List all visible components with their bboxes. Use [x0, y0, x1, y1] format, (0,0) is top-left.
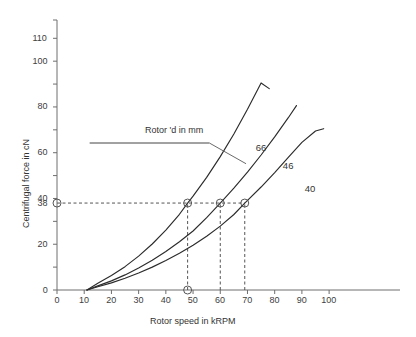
y-axis-title: Centrifugal force in cN: [21, 139, 31, 228]
curve-66: [87, 83, 269, 290]
x-tick-label: 40: [161, 296, 171, 305]
axes-group: [57, 20, 400, 290]
x-tick-label: 30: [133, 296, 143, 305]
markers-group: [53, 199, 249, 294]
tick-marks-group: [53, 20, 329, 294]
y-axis-title-wrap: Centrifugal force in cN: [10, 90, 24, 230]
chart-figure: Centrifugal force in cN Rotor speed in k…: [0, 0, 416, 337]
y-tick-label: 80: [38, 102, 48, 111]
x-tick-label: 100: [321, 296, 336, 305]
y-tick-label: 0: [43, 286, 48, 295]
y-tick-label: 100: [32, 57, 47, 66]
curve-label-66: 66: [256, 143, 267, 153]
annotation-leader-line: [209, 143, 246, 164]
x-tick-label: 80: [269, 296, 279, 305]
y-tick-label: 110: [32, 34, 46, 43]
curves-group: [87, 83, 324, 290]
x-tick-label: 60: [215, 296, 225, 305]
x-axis-title: Rotor speed in kRPM: [150, 317, 236, 326]
x-tick-label: 50: [188, 296, 198, 305]
y-tick-label-special: 38: [38, 199, 48, 208]
x-tick-label: 20: [106, 296, 116, 305]
x-tick-label: 0: [54, 296, 59, 305]
curve-40: [87, 129, 324, 290]
x-tick-label: 70: [242, 296, 252, 305]
y-tick-label: 20: [38, 240, 48, 249]
x-tick-label: 10: [79, 296, 89, 305]
annotation-label: Rotor 'd in mm: [145, 126, 203, 135]
curve-label-46: 46: [283, 161, 294, 171]
y-tick-label: 60: [38, 148, 48, 157]
guide-lines-group: [57, 203, 245, 290]
chart-plot-area: [0, 0, 416, 337]
curve-label-40: 40: [305, 184, 316, 194]
x-tick-label: 90: [297, 296, 307, 305]
